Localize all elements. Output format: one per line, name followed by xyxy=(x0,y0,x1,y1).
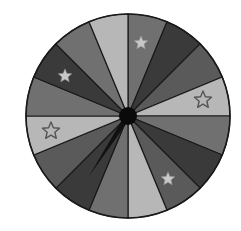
spinner-wheel[interactable] xyxy=(0,0,241,231)
wheel-hub[interactable] xyxy=(119,107,137,125)
